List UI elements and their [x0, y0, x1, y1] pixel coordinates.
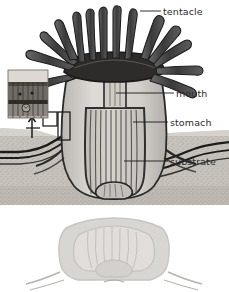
tissue-detail-inset	[8, 70, 48, 123]
label-mouth: mouth	[176, 88, 207, 99]
label-substrate: substrate	[170, 156, 216, 167]
sea-anemone-figure	[0, 0, 229, 292]
pedal-disc	[96, 182, 133, 199]
label-stomach: stomach	[170, 117, 212, 128]
label-tentacle: tentacle	[163, 6, 203, 17]
